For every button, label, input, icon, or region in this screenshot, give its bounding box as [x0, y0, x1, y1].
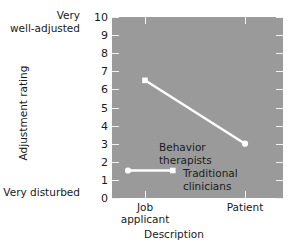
y-axis-tick-mark: [112, 198, 119, 199]
y-axis-tick-labels: 012345678910: [84, 17, 108, 198]
y-axis-tick-label: 10: [86, 12, 108, 23]
y-axis-tick-mark: [112, 17, 119, 18]
x-axis-title: Description: [119, 228, 229, 240]
y-axis-high-label: Very well-adjusted: [0, 9, 80, 34]
y-axis-tick-label: 6: [86, 84, 108, 95]
y-axis-tick-mark-right: [276, 198, 283, 199]
y-axis-tick-mark-right: [276, 180, 283, 181]
x-tick-1-line1: Patient: [202, 201, 288, 213]
legend-label-traditional-clinicians: Traditional clinicians: [183, 167, 257, 192]
x-axis-tick-label-job-applicant: Job applicant: [102, 201, 188, 225]
y-axis-tick-mark-right: [276, 144, 283, 145]
x-tick-0-line2: applicant: [102, 213, 188, 225]
y-axis-tick-mark: [112, 180, 119, 181]
y-axis-tick-mark: [112, 144, 119, 145]
annotation-behavior-line1: Behavior: [159, 141, 231, 154]
y-axis-tick-mark-right: [276, 126, 283, 127]
y-axis-title: Adjustment rating: [17, 43, 29, 183]
y-axis-tick-label: 9: [86, 30, 108, 41]
y-axis-tick-label: 8: [86, 48, 108, 59]
y-axis-tick-mark: [112, 53, 119, 54]
y-axis-tick-mark: [112, 71, 119, 72]
x-axis-tick-label-patient: Patient: [202, 201, 288, 213]
y-axis-tick-mark: [112, 35, 119, 36]
x-axis-tick-mark: [245, 191, 246, 198]
data-point-marker-patient: [242, 141, 248, 147]
y-axis-tick-mark-right: [276, 17, 283, 18]
y-axis-tick-label: 2: [86, 156, 108, 167]
y-axis-tick-label: 5: [86, 102, 108, 113]
y-axis-tick-mark-right: [276, 89, 283, 90]
y-axis-tick-label: 3: [86, 138, 108, 149]
x-tick-0-line1: Job: [102, 201, 188, 213]
y-axis-tick-mark: [112, 126, 119, 127]
y-axis-tick-mark-right: [276, 108, 283, 109]
x-axis-tick-mark: [145, 191, 146, 198]
data-point-marker-job-applicant: [142, 78, 148, 84]
y-axis-tick-mark: [112, 108, 119, 109]
y-axis-high-label-line2: well-adjusted: [0, 22, 80, 35]
y-axis-tick-mark-right: [276, 71, 283, 72]
y-axis-tick-label: 7: [86, 66, 108, 77]
y-axis-tick-label: 4: [86, 120, 108, 131]
plot-area: Behavior therapists Traditional clinicia…: [112, 17, 283, 198]
x-axis-tick-mark-top: [145, 17, 146, 24]
chart-figure: Very well-adjusted Very disturbed Adjust…: [0, 0, 299, 252]
legend-sample-line: [123, 166, 179, 175]
y-axis-tick-mark-right: [276, 53, 283, 54]
y-axis-tick-mark: [112, 89, 119, 90]
legend-label-line1: Traditional: [183, 167, 257, 180]
y-axis-tick-mark-right: [276, 35, 283, 36]
annotation-behavior-line2: therapists: [159, 154, 231, 167]
y-axis-tick-label: 1: [86, 174, 108, 185]
y-axis-tick-mark-right: [276, 162, 283, 163]
y-axis-low-label: Very disturbed: [0, 186, 80, 199]
annotation-behavior-therapists: Behavior therapists: [159, 141, 231, 166]
y-axis-high-label-line1: Very: [0, 9, 80, 22]
series-line-traditional-clinicians: [145, 80, 245, 143]
x-axis-tick-mark-top: [245, 17, 246, 24]
y-axis-tick-mark: [112, 162, 119, 163]
